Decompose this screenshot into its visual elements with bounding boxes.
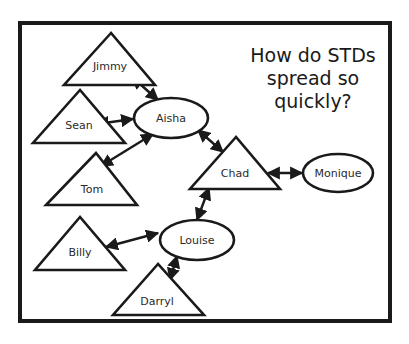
node-label: Billy xyxy=(68,246,92,259)
node-label: Sean xyxy=(65,119,92,132)
node-label: Monique xyxy=(315,167,362,180)
title-line-2: spread so xyxy=(267,67,359,89)
std-spread-diagram: How do STDs spread so quickly? Jimmy Sea… xyxy=(0,0,409,344)
node-label: Tom xyxy=(80,183,103,196)
node-monique: Monique xyxy=(303,154,373,192)
title-line-3: quickly? xyxy=(274,90,351,112)
node-label: Louise xyxy=(179,234,214,247)
node-aisha: Aisha xyxy=(134,98,208,138)
node-label: Aisha xyxy=(156,112,186,125)
node-label: Jimmy xyxy=(92,60,128,73)
node-label: Darryl xyxy=(140,295,174,308)
title-line-1: How do STDs xyxy=(250,44,375,66)
node-label: Chad xyxy=(221,167,249,180)
node-louise: Louise xyxy=(160,220,234,260)
